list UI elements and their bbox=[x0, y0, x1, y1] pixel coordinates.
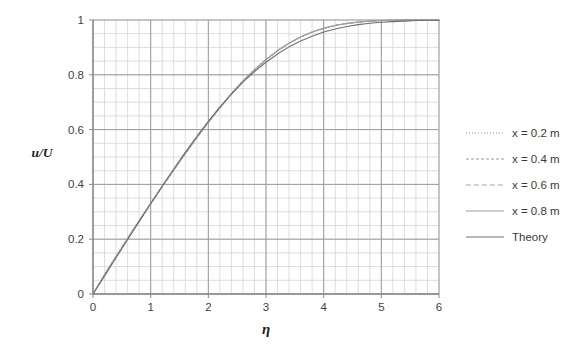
y-tick-label: 1 bbox=[78, 14, 84, 26]
y-axis-title: u/U bbox=[31, 145, 53, 160]
chart-background bbox=[0, 0, 584, 350]
y-tick-label: 0.2 bbox=[68, 233, 84, 245]
chart-container: 0123456 00.20.40.60.81 η u/U x = 0.2 mx … bbox=[0, 0, 584, 350]
legend-item-label: x = 0.4 m bbox=[512, 153, 560, 165]
legend-item-label: x = 0.6 m bbox=[512, 179, 560, 191]
x-axis-title: η bbox=[262, 321, 270, 337]
y-tick-label: 0.6 bbox=[68, 124, 84, 136]
x-tick-label: 4 bbox=[320, 301, 327, 313]
x-tick-label: 5 bbox=[378, 301, 384, 313]
blasius-velocity-profile-chart: 0123456 00.20.40.60.81 η u/U x = 0.2 mx … bbox=[0, 0, 584, 350]
x-tick-label: 6 bbox=[436, 301, 442, 313]
x-tick-label: 1 bbox=[147, 301, 153, 313]
y-tick-label: 0 bbox=[78, 288, 84, 300]
y-tick-label: 0.8 bbox=[68, 69, 84, 81]
legend-item-label: x = 0.2 m bbox=[512, 127, 560, 139]
x-tick-label: 2 bbox=[205, 301, 211, 313]
legend-item-label: x = 0.8 m bbox=[512, 205, 560, 217]
x-tick-label: 3 bbox=[263, 301, 269, 313]
y-tick-label: 0.4 bbox=[68, 178, 85, 190]
x-tick-label: 0 bbox=[90, 301, 96, 313]
legend-item-label: Theory bbox=[512, 231, 548, 243]
